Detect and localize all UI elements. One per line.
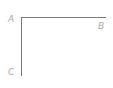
right-angle-diagram: A B C xyxy=(0,0,113,88)
segment-ac xyxy=(21,17,22,76)
point-label-c: C xyxy=(8,68,14,77)
point-label-a: A xyxy=(8,15,14,24)
segment-ab xyxy=(21,17,106,18)
point-label-b: B xyxy=(98,22,104,31)
